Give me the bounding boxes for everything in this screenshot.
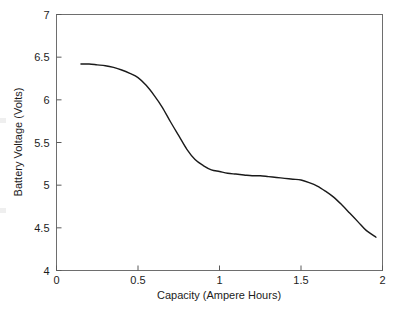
- y-tick-label: 7: [43, 9, 49, 21]
- x-tick-label: 0.5: [130, 274, 145, 286]
- y-tick-label: 6.5: [34, 51, 49, 63]
- x-axis-tick-labels: 00.511.52: [53, 274, 385, 286]
- y-tick-label: 4.5: [34, 222, 49, 234]
- y-tick-label: 5.5: [34, 137, 49, 149]
- y-tick-label: 6: [43, 94, 49, 106]
- line-chart: 00.511.52 44.555.566.57 Capacity (Ampere…: [0, 0, 399, 313]
- x-tick-label: 1: [216, 274, 222, 286]
- x-tick-label: 2: [379, 274, 385, 286]
- scan-artifact-lower: [0, 208, 6, 213]
- x-tick-label: 0: [53, 274, 59, 286]
- plot-frame: [57, 15, 383, 271]
- y-axis-title: Battery Voltage (Volts): [12, 88, 24, 197]
- x-axis-title: Capacity (Ampere Hours): [157, 289, 281, 301]
- y-tick-label: 4: [43, 265, 49, 277]
- chart-figure: 00.511.52 44.555.566.57 Capacity (Ampere…: [0, 0, 399, 313]
- scan-artifact-upper: [0, 118, 6, 123]
- x-tick-label: 1.5: [293, 274, 308, 286]
- y-axis-tick-labels: 44.555.566.57: [34, 9, 49, 277]
- y-tick-label: 5: [43, 179, 49, 191]
